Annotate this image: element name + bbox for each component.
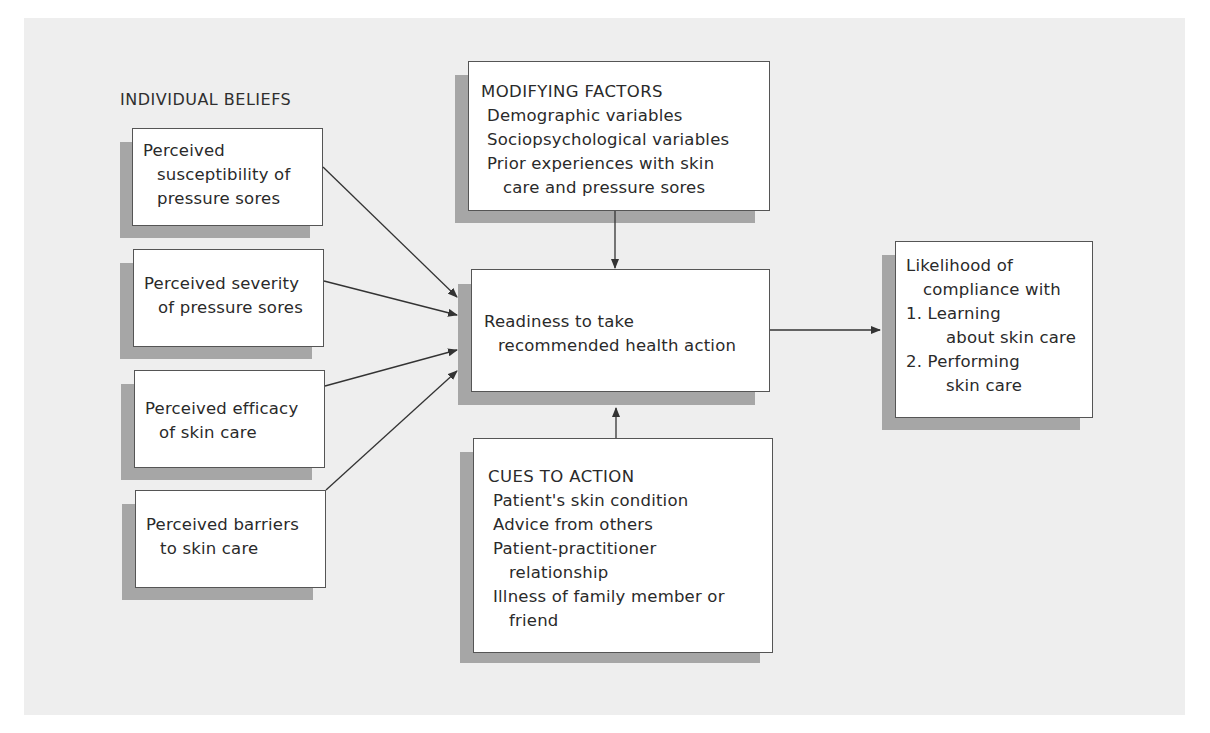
outcome-text-line: Likelihood of [906,254,1092,278]
individual-beliefs-heading: INDIVIDUAL BELIEFS [120,90,291,109]
modifying-factor-item: Prior experiences with skin [481,152,769,176]
outcome-text-line: about skin care [906,326,1092,350]
belief-text-line: pressure sores [143,187,322,211]
belief-box-efficacy: Perceived efficacy of skin care [134,370,325,468]
outcome-text-line: 1. Learning [906,302,1092,326]
modifying-factor-item: care and pressure sores [481,176,769,200]
outcome-text-line: 2. Performing [906,350,1092,374]
belief-box-susceptibility: Perceived susceptibility of pressure sor… [132,128,323,226]
belief-text-line: Perceived efficacy [145,397,324,421]
cue-item: friend [488,609,772,633]
belief-box-barriers: Perceived barriers to skin care [135,490,326,588]
belief-text-line: Perceived severity [144,272,323,296]
belief-text-line: susceptibility of [143,163,322,187]
readiness-text-line: Readiness to take [484,310,769,334]
cues-to-action-box: CUES TO ACTION Patient's skin condition … [473,438,773,653]
cue-item: relationship [488,561,772,585]
belief-text-line: to skin care [146,537,325,561]
outcome-box: Likelihood of compliance with 1. Learnin… [895,241,1093,418]
outcome-text-line: skin care [906,374,1092,398]
cue-item: Patient's skin condition [488,489,772,513]
cue-item: Patient-practitioner [488,537,772,561]
modifying-factors-box: MODIFYING FACTORS Demographic variables … [468,61,770,211]
cue-item: Illness of family member or [488,585,772,609]
cue-item: Advice from others [488,513,772,537]
belief-box-severity: Perceived severity of pressure sores [133,249,324,347]
outcome-text-line: compliance with [906,278,1092,302]
readiness-box: Readiness to take recommended health act… [471,269,770,392]
cues-to-action-heading: CUES TO ACTION [488,465,772,489]
readiness-text-line: recommended health action [484,334,769,358]
belief-text-line: of pressure sores [144,296,323,320]
modifying-factors-heading: MODIFYING FACTORS [481,80,769,104]
belief-text-line: Perceived [143,139,322,163]
belief-text-line: Perceived barriers [146,513,325,537]
belief-text-line: of skin care [145,421,324,445]
modifying-factor-item: Sociopsychological variables [481,128,769,152]
modifying-factor-item: Demographic variables [481,104,769,128]
